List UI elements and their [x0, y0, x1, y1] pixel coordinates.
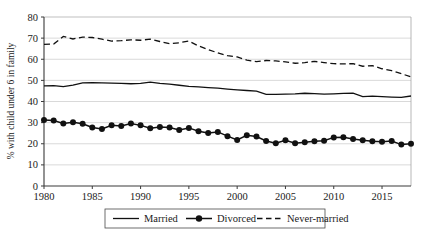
data-point	[138, 122, 144, 128]
data-point	[157, 124, 163, 130]
data-point	[89, 124, 95, 130]
x-tick-label-1990: 1990	[130, 191, 151, 202]
data-point	[186, 125, 192, 131]
line-chart: 01020304050607080 1980198519901995200020…	[0, 0, 428, 235]
y-axis-title: % with child under 6 in family	[6, 42, 16, 159]
data-point	[360, 137, 366, 143]
data-point	[331, 134, 337, 140]
data-point	[369, 138, 375, 144]
data-point	[205, 130, 211, 136]
data-point	[273, 140, 279, 146]
y-tick-label-70: 70	[28, 33, 39, 44]
data-point	[292, 140, 298, 146]
y-tick-label-30: 30	[28, 117, 39, 128]
data-point	[302, 139, 308, 145]
data-point	[80, 121, 86, 127]
series-line-0	[44, 82, 411, 97]
legend-label: Married	[144, 213, 179, 224]
data-point	[225, 133, 231, 139]
y-tick-label-60: 60	[28, 54, 39, 65]
y-tick-label-50: 50	[28, 75, 39, 86]
series-married	[44, 82, 411, 97]
data-point	[253, 134, 259, 140]
data-point	[398, 142, 404, 148]
data-point	[408, 141, 414, 147]
data-point	[311, 138, 317, 144]
y-tick-label-80: 80	[28, 12, 39, 23]
data-point	[234, 137, 240, 143]
data-point	[379, 139, 385, 145]
data-point	[244, 132, 250, 138]
x-tick-label-1985: 1985	[82, 191, 103, 202]
data-point	[70, 119, 76, 125]
x-tick-label-2005: 2005	[275, 191, 296, 202]
data-point	[282, 137, 288, 143]
data-point	[167, 124, 173, 130]
series-line-1	[44, 120, 411, 145]
legend-marker-sample	[196, 215, 202, 221]
data-point	[215, 129, 221, 135]
series-never-married	[44, 36, 411, 77]
series-divorced	[41, 117, 414, 148]
data-point	[99, 126, 105, 132]
x-axis-tick-labels: 19801985199019952000200520102015	[34, 191, 393, 202]
data-point	[128, 120, 134, 126]
x-tick-label-2010: 2010	[323, 191, 344, 202]
x-tick-label-2000: 2000	[227, 191, 248, 202]
y-tick-label-10: 10	[28, 159, 39, 170]
x-tick-label-1980: 1980	[34, 191, 55, 202]
data-point	[41, 117, 47, 123]
data-point	[147, 125, 153, 131]
legend-label: Divorced	[217, 213, 257, 224]
y-tick-label-20: 20	[28, 138, 39, 149]
series-line-2	[44, 36, 411, 77]
data-point	[118, 123, 124, 129]
chart-figure: 01020304050607080 1980198519901995200020…	[0, 0, 428, 235]
data-series-group	[41, 36, 414, 147]
data-point	[176, 127, 182, 133]
data-point	[196, 128, 202, 134]
data-point	[51, 118, 57, 124]
x-tick-label-2015: 2015	[372, 191, 393, 202]
data-point	[321, 138, 327, 144]
data-point	[263, 138, 269, 144]
y-tick-label-0: 0	[33, 181, 38, 192]
y-axis-tick-labels: 01020304050607080	[28, 12, 39, 192]
data-point	[350, 136, 356, 142]
data-point	[109, 122, 115, 128]
x-tick-label-1995: 1995	[178, 191, 199, 202]
legend-label: Never-married	[287, 213, 349, 224]
chart-legend: MarriedDivorcedNever-married	[105, 209, 349, 228]
data-point	[389, 138, 395, 144]
data-point	[340, 134, 346, 140]
data-point	[60, 120, 66, 126]
y-tick-label-40: 40	[28, 96, 39, 107]
